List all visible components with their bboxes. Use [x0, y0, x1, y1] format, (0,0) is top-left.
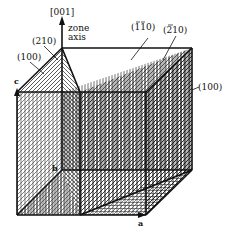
b-axis-label: b: [52, 163, 58, 173]
plane-bar210-label: (210): [163, 25, 187, 35]
plane-210-label: (210): [32, 36, 56, 46]
zone-axis-caption-2: axis: [68, 32, 86, 42]
c-axis-label: c: [14, 76, 19, 86]
plane-100-left-label: (100): [17, 52, 41, 62]
zone-axis-arrow: [59, 16, 65, 48]
plane-100-right-label: (100): [198, 82, 222, 92]
plane-bar110-label: (110): [131, 22, 155, 32]
a-axis-label: a: [138, 218, 143, 228]
zone-axis-diagram: [001] zone axis (210) (100) (110) (210) …: [0, 0, 232, 233]
zone-axis-direction-label: [001]: [50, 7, 74, 17]
